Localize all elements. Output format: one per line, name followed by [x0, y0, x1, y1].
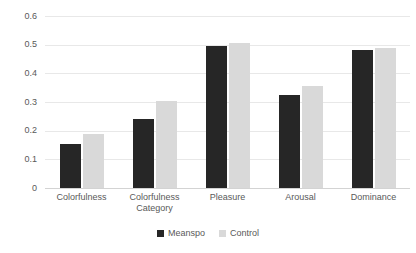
bar [352, 50, 373, 188]
y-axis-tick-label: 0.4 [7, 69, 37, 78]
bar [133, 119, 154, 188]
bar [156, 101, 177, 188]
y-axis-tick-label: 0 [7, 184, 37, 193]
bar [302, 86, 323, 188]
gridline [45, 16, 410, 17]
bar [279, 95, 300, 188]
bar [375, 48, 396, 188]
x-axis-category-label: Colorfulness Category [118, 192, 191, 214]
legend-entry[interactable]: Control [219, 228, 259, 238]
plot-area [45, 16, 410, 188]
x-axis-category-label: Arousal [264, 192, 337, 203]
y-axis-tick-label: 0.2 [7, 126, 37, 135]
x-axis-category-label: Colorfulness [45, 192, 118, 203]
bar [229, 43, 250, 188]
chart-legend: MeanspoControl [0, 228, 416, 238]
y-axis-tick-label: 0.5 [7, 40, 37, 49]
gridline [45, 188, 410, 189]
gridline [45, 45, 410, 46]
legend-swatch-icon [219, 230, 226, 237]
bar-chart: 00.10.20.30.40.50.6 ColorfulnessColorful… [0, 0, 416, 253]
bar [83, 134, 104, 188]
y-axis-tick-label: 0.1 [7, 155, 37, 164]
legend-entry[interactable]: Meanspo [157, 228, 205, 238]
legend-label: Meanspo [168, 228, 205, 238]
legend-label: Control [230, 228, 259, 238]
x-axis-category-label: Dominance [337, 192, 410, 203]
legend-swatch-icon [157, 230, 164, 237]
bar [206, 46, 227, 188]
y-axis-tick-label: 0.6 [7, 12, 37, 21]
x-axis-category-label: Pleasure [191, 192, 264, 203]
bar [60, 144, 81, 188]
y-axis-tick-label: 0.3 [7, 98, 37, 107]
